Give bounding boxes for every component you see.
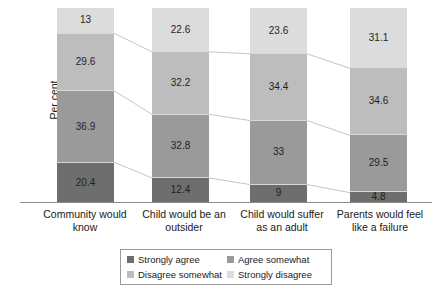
x-axis-label-line: Parents would feel [320,208,432,221]
plot-area: 1329.636.920.4 22.632.232.812.4 23.634.4… [57,8,407,202]
segment-value-label: 22.6 [171,25,190,35]
bar-segment: 9 [250,184,307,202]
segment-value-label: 32.8 [171,141,190,151]
bar-segment: 22.6 [152,8,209,51]
segment-value-label: 29.5 [369,158,388,168]
legend-label: Disagree somewhat [138,269,222,280]
bar-segment: 33 [250,120,307,184]
stacked-bar-chart: Per cent 1329.636.920.4 22.632.232.812.4… [0,0,432,302]
bar-segment: 32.8 [152,114,209,178]
bar-group-3: 23.634.4339 [250,8,307,202]
legend-item[interactable]: Strongly agree [127,254,227,265]
connector-line [209,178,250,185]
bar-segment: 31.1 [350,8,407,67]
segment-value-label: 12.4 [171,185,190,195]
bar-segment: 34.4 [250,53,307,120]
segment-value-label: 20.4 [76,178,95,188]
segment-value-label: 36.9 [76,122,95,132]
x-axis-label-4: Parents would feellike a failure [320,208,432,234]
connector-line [307,121,350,136]
segment-value-label: 34.4 [269,82,288,92]
segment-value-label: 33 [273,147,284,157]
legend-label: Strongly agree [138,254,200,265]
legend-swatch-icon [227,271,234,278]
legend-swatch-icon [127,271,134,278]
segment-value-label: 32.2 [171,78,190,88]
connector-line [209,114,250,120]
bar-segment: 29.6 [57,33,114,91]
bar-segment: 13 [57,8,114,33]
legend-item[interactable]: Strongly disagree [227,269,327,280]
bar-segment: 23.6 [250,8,307,53]
connector-line [307,54,350,69]
bar-segment: 29.5 [350,134,407,191]
bar-segment: 36.9 [57,90,114,162]
segment-value-label: 34.6 [369,96,388,106]
connector-line [114,33,152,52]
bar-group-2: 22.632.232.812.4 [152,8,209,202]
segment-value-label: 4.8 [372,192,386,202]
legend-label: Strongly disagree [238,269,312,280]
connector-line [209,52,250,54]
connector-line [114,162,152,178]
legend-swatch-icon [227,256,234,263]
legend-swatch-icon [127,256,134,263]
x-axis-baseline [20,202,432,203]
chart-legend: Strongly agreeAgree somewhatDisagree som… [120,249,332,285]
segment-value-label: 9 [276,188,282,198]
x-axis-labels: Community wouldknow Child would be anout… [0,208,432,242]
connector-line [114,91,152,115]
segment-value-label: 13 [80,15,91,25]
x-axis-label-line: like a failure [320,221,432,234]
bar-group-4: 31.134.629.54.8 [350,8,407,202]
segment-value-label: 29.6 [76,57,95,67]
bar-segment: 20.4 [57,162,114,202]
bar-segment: 32.2 [152,51,209,114]
bar-segment: 34.6 [350,67,407,134]
bar-group-1: 1329.636.920.4 [57,8,114,202]
legend-item[interactable]: Disagree somewhat [127,269,227,280]
segment-value-label: 31.1 [369,33,388,43]
legend-label: Agree somewhat [238,254,309,265]
bar-segment: 12.4 [152,177,209,202]
segment-value-label: 23.6 [269,26,288,36]
connector-line [307,185,350,193]
legend-item[interactable]: Agree somewhat [227,254,327,265]
bar-segment: 4.8 [350,191,407,202]
